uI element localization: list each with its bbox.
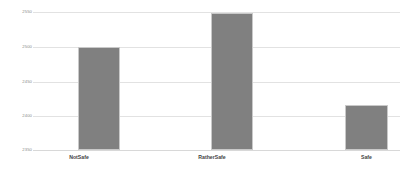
y-axis: 2550 2500 2450 2400 2350 [0,0,32,173]
bar-chart: 2550 2500 2450 2400 2350 NotSafe RatherS… [0,0,405,173]
x-axis-tick-label-rathersafe: RatherSafe [191,155,233,160]
bar-notsafe[interactable] [78,47,120,150]
x-axis-baseline [33,150,400,151]
x-axis-tick-label-notsafe: NotSafe [58,155,100,160]
y-axis-tick-label: 2400 [2,114,32,118]
bar-safe[interactable] [345,105,388,150]
y-axis-tick-label: 2500 [2,45,32,49]
y-axis-tick-label: 2450 [2,80,32,84]
x-axis-tick-label-safe: Safe [345,155,388,160]
bar-rathersafe[interactable] [211,13,253,150]
y-axis-tick-label: 2550 [2,10,32,14]
y-axis-tick-label: 2350 [2,148,32,152]
plot-area [33,12,400,150]
